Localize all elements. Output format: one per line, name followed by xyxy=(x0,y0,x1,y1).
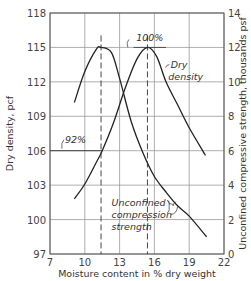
y-tick-label: 106 xyxy=(27,146,46,157)
annotation-100pct: 100% xyxy=(136,32,163,43)
label-strength: Unconfined xyxy=(111,197,166,208)
annotation-92pct: 92% xyxy=(65,134,86,145)
y2-tick-label: 8 xyxy=(228,111,234,122)
y-tick-label: 103 xyxy=(27,180,46,191)
x-tick-label: 13 xyxy=(113,257,126,268)
y-tick-label: 118 xyxy=(27,8,46,19)
compaction-chart: 7101316192297100103106109112115118024681… xyxy=(0,0,251,281)
svg-text:density: density xyxy=(168,71,203,82)
label-dry-density: Dry xyxy=(171,59,188,70)
y-tick-label: 109 xyxy=(27,111,46,122)
tick-labels: 7101316192297100103106109112115118024681… xyxy=(4,8,248,279)
x-tick-label: 10 xyxy=(78,257,91,268)
y2-tick-label: 0 xyxy=(228,249,234,260)
y-tick-label: 112 xyxy=(27,77,46,88)
y-tick-label: 97 xyxy=(33,249,46,260)
x-axis-label: Moisture content in % dry weight xyxy=(58,268,216,279)
y-axis-label: Dry density, pcf xyxy=(4,95,15,171)
y-tick-label: 100 xyxy=(27,215,46,226)
svg-text:compression: compression xyxy=(111,209,171,220)
x-tick-label: 7 xyxy=(47,257,53,268)
x-tick-label: 16 xyxy=(148,257,161,268)
y2-axis-label: Unconfined compressive strength, thousan… xyxy=(237,17,248,250)
svg-text:strength: strength xyxy=(111,221,151,232)
annotations: 100%92%DrydensityUnconfinedcompressionst… xyxy=(50,32,204,254)
y-tick-label: 115 xyxy=(27,42,46,53)
x-tick-label: 19 xyxy=(183,257,196,268)
y2-tick-label: 4 xyxy=(228,180,234,191)
y2-tick-label: 2 xyxy=(228,215,234,226)
y2-tick-label: 6 xyxy=(228,146,234,157)
